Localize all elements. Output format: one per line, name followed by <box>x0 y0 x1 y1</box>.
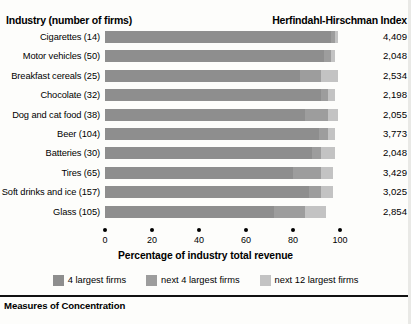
bar-segment-3 <box>321 70 337 82</box>
axis-tick-dot <box>291 228 295 232</box>
industry-label: Dog and cat food (38) <box>0 108 100 122</box>
bar-segment-3 <box>328 109 337 121</box>
axis-tick-dot <box>244 228 248 232</box>
bar-segment-3 <box>321 147 335 159</box>
axis-tick-dot <box>338 228 342 232</box>
stacked-bar <box>105 89 335 101</box>
stacked-bar <box>105 50 335 62</box>
axis-tick-label: 40 <box>194 235 204 246</box>
industry-label: Cigarettes (14) <box>0 30 100 44</box>
bar-segment-3 <box>331 50 336 62</box>
industry-label: Soft drinks and ice (157) <box>0 185 100 199</box>
industry-label: Tires (65) <box>0 166 100 180</box>
bar-segment-2 <box>293 167 321 179</box>
bar-segment-3 <box>321 167 333 179</box>
axis-tick-dot <box>197 228 201 232</box>
legend-label: next 12 largest firms <box>275 275 359 286</box>
concentration-chart: Industry (number of firms) Herfindahl-Hi… <box>0 0 411 324</box>
industry-label: Breakfast cereals (25) <box>0 69 100 83</box>
stacked-bar <box>105 70 338 82</box>
axis-tick-dot <box>150 228 154 232</box>
bar-segment-2 <box>312 147 321 159</box>
hhi-value: 4,409 <box>383 30 407 44</box>
bar-segment-3 <box>321 186 333 198</box>
axis-tick-label: 100 <box>332 235 347 246</box>
legend-4-largest: 4 largest firms <box>53 275 126 286</box>
axis-tick-label: 0 <box>102 235 107 246</box>
legend-label: next 4 largest firms <box>161 275 240 286</box>
legend-swatch-icon <box>146 275 157 286</box>
stacked-bar <box>105 128 335 140</box>
plot-area: Cigarettes (14)4,409Motor vehicles (50)2… <box>0 30 411 224</box>
chart-row: Beer (104)3,773 <box>0 127 411 141</box>
bar-segment-3 <box>328 89 335 101</box>
bar-segment-1 <box>105 167 293 179</box>
stacked-bar <box>105 31 338 43</box>
bar-segment-1 <box>105 31 331 43</box>
x-axis: 020406080100 <box>0 224 411 248</box>
legend-next-12: next 12 largest firms <box>260 275 359 286</box>
chart-row: Soft drinks and ice (157)3,025 <box>0 185 411 199</box>
hhi-value: 2,534 <box>383 69 407 83</box>
bar-segment-3 <box>335 31 337 43</box>
bar-segment-2 <box>274 206 305 218</box>
chart-header: Industry (number of firms) Herfindahl-Hi… <box>0 14 411 30</box>
industry-label: Glass (105) <box>0 205 100 219</box>
bar-segment-1 <box>105 50 324 62</box>
chart-row: Chocolate (32)2,198 <box>0 88 411 102</box>
hhi-value: 3,025 <box>383 185 407 199</box>
stacked-bar <box>105 109 338 121</box>
hhi-column-header: Herfindahl-Hirschman Index <box>272 14 407 26</box>
legend-label: 4 largest firms <box>68 275 126 286</box>
x-axis-title: Percentage of industry total revenue <box>0 250 411 261</box>
bar-segment-1 <box>105 128 319 140</box>
bar-segment-1 <box>105 89 321 101</box>
legend-swatch-icon <box>53 275 64 286</box>
bar-segment-1 <box>105 70 300 82</box>
hhi-value: 2,048 <box>383 49 407 63</box>
legend-next-4: next 4 largest firms <box>146 275 240 286</box>
bar-segment-1 <box>105 206 274 218</box>
bar-segment-2 <box>309 186 321 198</box>
bar-segment-2 <box>319 128 328 140</box>
chart-row: Batteries (30)2,048 <box>0 146 411 160</box>
chart-row: Breakfast cereals (25)2,534 <box>0 69 411 83</box>
bar-segment-3 <box>305 206 326 218</box>
industry-label: Batteries (30) <box>0 146 100 160</box>
footer-divider <box>0 295 411 297</box>
stacked-bar <box>105 186 333 198</box>
axis-tick-label: 60 <box>241 235 251 246</box>
industry-label: Chocolate (32) <box>0 88 100 102</box>
chart-row: Cigarettes (14)4,409 <box>0 30 411 44</box>
hhi-value: 2,854 <box>383 205 407 219</box>
bar-segment-2 <box>300 70 321 82</box>
industry-column-header: Industry (number of firms) <box>6 14 132 26</box>
stacked-bar <box>105 147 335 159</box>
hhi-value: 2,048 <box>383 146 407 160</box>
hhi-value: 3,773 <box>383 127 407 141</box>
chart-row: Dog and cat food (38)2,055 <box>0 108 411 122</box>
bar-segment-2 <box>324 50 331 62</box>
chart-row: Tires (65)3,429 <box>0 166 411 180</box>
axis-tick-label: 20 <box>147 235 157 246</box>
bar-segment-1 <box>105 109 305 121</box>
bar-segment-2 <box>321 89 328 101</box>
stacked-bar <box>105 206 326 218</box>
hhi-value: 3,429 <box>383 166 407 180</box>
axis-tick-label: 80 <box>288 235 298 246</box>
chart-row: Motor vehicles (50)2,048 <box>0 49 411 63</box>
industry-label: Beer (104) <box>0 127 100 141</box>
axis-tick-dot <box>103 228 107 232</box>
bar-segment-1 <box>105 186 309 198</box>
bar-segment-1 <box>105 147 312 159</box>
hhi-value: 2,198 <box>383 88 407 102</box>
footer-section-title: Measures of Concentration <box>4 300 125 311</box>
stacked-bar <box>105 167 333 179</box>
bar-segment-2 <box>305 109 329 121</box>
chart-legend: 4 largest firmsnext 4 largest firmsnext … <box>0 272 411 288</box>
chart-row: Glass (105)2,854 <box>0 205 411 219</box>
industry-label: Motor vehicles (50) <box>0 49 100 63</box>
legend-swatch-icon <box>260 275 271 286</box>
bar-segment-3 <box>328 128 335 140</box>
hhi-value: 2,055 <box>383 108 407 122</box>
